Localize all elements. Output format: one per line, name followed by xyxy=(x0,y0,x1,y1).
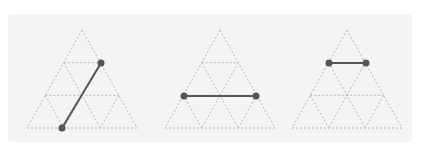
grid-line xyxy=(27,30,82,128)
triangular-grid-diagrams xyxy=(0,0,422,152)
endpoint-dot xyxy=(98,60,105,67)
grid-line xyxy=(238,95,256,128)
grid-line xyxy=(183,95,201,128)
grid-line xyxy=(310,95,328,128)
grid-line xyxy=(220,30,275,128)
grid-line xyxy=(100,95,118,128)
endpoint-dot xyxy=(59,125,66,132)
endpoint-dot xyxy=(181,93,188,100)
endpoint-dot xyxy=(363,60,370,67)
grid-line xyxy=(45,95,63,128)
grid-line xyxy=(347,30,402,128)
endpoint-dot xyxy=(253,93,260,100)
grid-line xyxy=(292,30,347,128)
endpoint-dot xyxy=(326,60,333,67)
grid-line xyxy=(365,95,383,128)
grid-line xyxy=(165,30,220,128)
